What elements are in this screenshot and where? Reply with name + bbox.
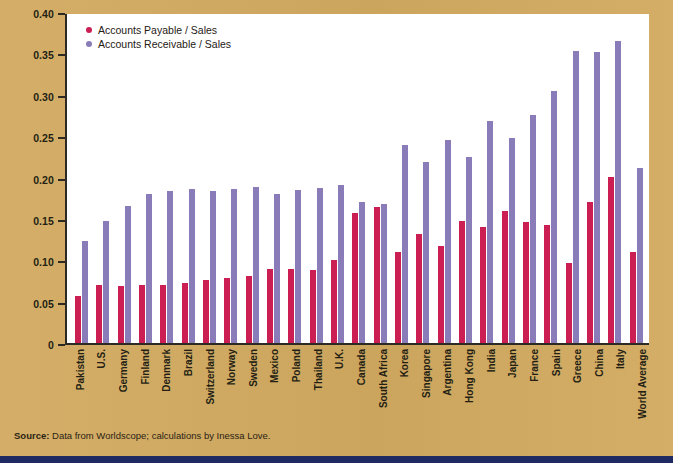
x-axis-category-label: Sweden (247, 349, 258, 387)
legend-item[interactable]: Accounts Payable / Sales (86, 24, 231, 36)
bar-group (391, 14, 412, 343)
x-axis-label-cell: Mexico (264, 349, 286, 429)
bar-accounts-receivable (82, 241, 88, 343)
x-axis-label-cell: Finland (134, 349, 156, 429)
y-axis-tick-label: 0 (48, 339, 58, 351)
y-axis: 0.400.350.300.250.200.150.100.050 (0, 0, 65, 347)
y-axis-tick-mark (58, 261, 65, 263)
bar-accounts-payable (139, 285, 145, 343)
bar-accounts-receivable (210, 191, 216, 343)
bar-accounts-receivable (509, 138, 515, 343)
x-axis-label-cell: World Average (631, 349, 653, 429)
x-axis-label-cell: Canada (350, 349, 372, 429)
bar-accounts-receivable (594, 52, 600, 343)
y-axis-tick: 0.20 (33, 174, 65, 186)
bar-accounts-receivable (338, 185, 344, 343)
bar-accounts-receivable (253, 187, 259, 343)
legend-item-label: Accounts Receivable / Sales (98, 38, 231, 50)
bar-group (455, 14, 476, 343)
bar-group (540, 14, 561, 343)
bar-group (71, 14, 92, 343)
x-axis-label-cell: Poland (285, 349, 307, 429)
bar-group (92, 14, 113, 343)
x-axis-label-cell: Norway (220, 349, 242, 429)
bar-group (604, 14, 625, 343)
x-axis-label-cell: Hong Kong (458, 349, 480, 429)
x-axis-label-cell: Singapore (415, 349, 437, 429)
bar-accounts-payable (267, 269, 273, 343)
x-axis-label-cell: Denmark (156, 349, 178, 429)
x-axis-category-label: Argentina (442, 349, 453, 396)
bar-accounts-payable (224, 278, 230, 343)
bar-group (135, 14, 156, 343)
x-axis-label-cell: Pakistan (69, 349, 91, 429)
bar-accounts-payable (523, 222, 529, 343)
bar-group (583, 14, 604, 343)
x-axis-category-label: Italy (615, 349, 626, 369)
bar-accounts-receivable (231, 189, 237, 343)
x-axis-label-cell: Italy (610, 349, 632, 429)
bar-group (434, 14, 455, 343)
x-axis-category-label: Thailand (312, 349, 323, 390)
bar-accounts-receivable (103, 221, 109, 343)
y-axis-tick-mark (58, 54, 65, 56)
x-axis-category-label: Finland (139, 349, 150, 385)
bar-accounts-receivable (146, 194, 152, 343)
x-axis-label-cell: Argentina (437, 349, 459, 429)
x-axis-category-label: Brazil (182, 349, 193, 376)
bar-accounts-receivable (637, 168, 643, 343)
bar-accounts-payable (246, 276, 252, 343)
x-axis-label-cell: China (588, 349, 610, 429)
x-axis-label-cell: South Africa (372, 349, 394, 429)
bar-group (519, 14, 540, 343)
bar-accounts-payable (288, 269, 294, 343)
bar-group (370, 14, 391, 343)
bar-accounts-payable (459, 221, 465, 343)
bar-accounts-receivable (445, 140, 451, 343)
y-axis-tick: 0.35 (33, 49, 65, 61)
bar-accounts-receivable (167, 191, 173, 343)
bar-group (348, 14, 369, 343)
x-axis-label-cell: U.K. (329, 349, 351, 429)
y-axis-tick-label: 0.05 (33, 298, 58, 310)
bar-accounts-payable (566, 263, 572, 343)
bar-group (562, 14, 583, 343)
y-axis-tick-label: 0.40 (33, 8, 58, 20)
x-axis-category-label: Korea (399, 349, 410, 377)
y-axis-tick: 0.30 (33, 91, 65, 103)
bar-group (242, 14, 263, 343)
x-axis-category-label: Pakistan (74, 349, 85, 390)
y-axis-tick: 0.10 (33, 256, 65, 268)
x-axis-category-label: Denmark (161, 349, 172, 392)
bar-accounts-receivable (274, 194, 280, 343)
x-axis-category-label: Norway (226, 349, 237, 385)
x-axis-category-label: Canada (355, 349, 366, 385)
bar-accounts-receivable (466, 157, 472, 343)
figure-page: 0.400.350.300.250.200.150.100.050 Accoun… (0, 0, 673, 476)
y-axis-tick: 0.05 (33, 298, 65, 310)
x-axis-category-label: U.S. (96, 349, 107, 368)
x-axis-label-cell: U.S. (91, 349, 113, 429)
x-axis-label-cell: Korea (393, 349, 415, 429)
legend-swatch-icon (86, 41, 92, 47)
y-axis-tick-label: 0.30 (33, 91, 58, 103)
x-axis-category-label: Singapore (420, 349, 431, 398)
y-axis-tick-label: 0.20 (33, 174, 58, 186)
x-axis-label-cell: Japan (502, 349, 524, 429)
y-axis-tick-mark (58, 13, 65, 15)
bar-group (306, 14, 327, 343)
legend-item[interactable]: Accounts Receivable / Sales (86, 38, 231, 50)
x-axis-label-cell: Germany (112, 349, 134, 429)
x-axis-label-cell: Brazil (177, 349, 199, 429)
x-axis-category-label: Mexico (269, 349, 280, 383)
x-axis-category-label: France (528, 349, 539, 382)
y-axis-tick-mark (58, 96, 65, 98)
y-axis-tick-mark (58, 303, 65, 305)
bar-group (199, 14, 220, 343)
y-axis-tick: 0.25 (33, 132, 65, 144)
bar-accounts-receivable (317, 188, 323, 343)
bar-accounts-payable (310, 270, 316, 343)
bar-group (263, 14, 284, 343)
legend-item-label: Accounts Payable / Sales (98, 24, 217, 36)
chart-legend: Accounts Payable / SalesAccounts Receiva… (86, 24, 231, 50)
